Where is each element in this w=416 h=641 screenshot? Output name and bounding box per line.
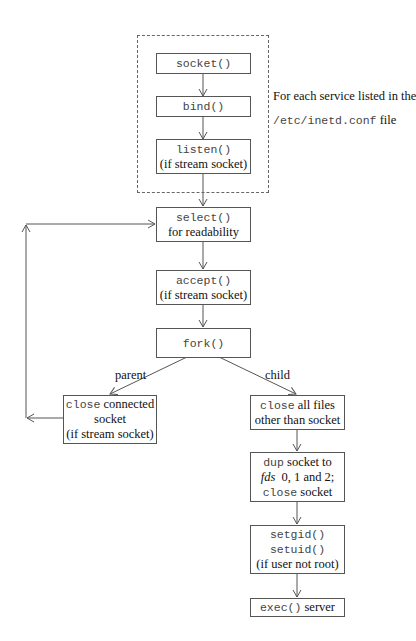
node-setid: setgid() setuid() (if user not root) (250, 525, 345, 574)
node-accept: accept() (if stream socket) (156, 270, 251, 305)
node-socket: socket() (156, 53, 251, 74)
loop-annotation-line2: /etc/inetd.conf file (273, 113, 396, 128)
node-listen: listen() (if stream socket) (156, 139, 251, 174)
node-parent-close: close connected socket (if stream socket… (63, 395, 157, 444)
edge-label-child: child (265, 368, 290, 383)
node-select: select() for readability (156, 207, 251, 242)
node-exec: exec() server (250, 598, 345, 617)
loop-annotation-line1: For each service listed in the (273, 89, 416, 103)
loop-annotation: For each service listed in the (273, 89, 416, 104)
node-fork: fork() (156, 328, 251, 358)
node-dup: dup socket to fds 0, 1 and 2; close sock… (250, 452, 345, 502)
node-bind: bind() (156, 96, 251, 117)
node-child-close: close all files other than socket (250, 395, 345, 430)
edge-label-parent: parent (115, 368, 146, 383)
inetd-conf-path: /etc/inetd.conf (273, 114, 377, 127)
